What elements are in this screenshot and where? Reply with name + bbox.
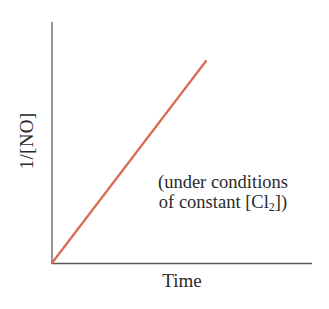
data-line bbox=[52, 61, 206, 263]
annotation-line-1: (under conditions bbox=[132, 172, 314, 192]
annotation-line-2-prefix: of constant [Cl bbox=[159, 192, 269, 212]
x-axis-label: Time bbox=[162, 270, 201, 292]
y-axis-label: 1/[NO] bbox=[16, 113, 38, 170]
annotation: (under conditions of constant [Cl2]) bbox=[132, 172, 314, 212]
chart: 1/[NO] Time (under conditions of constan… bbox=[0, 0, 329, 309]
chart-canvas bbox=[0, 0, 329, 309]
annotation-line-2-suffix: ]) bbox=[275, 192, 287, 212]
annotation-line-2: of constant [Cl2]) bbox=[132, 192, 314, 212]
